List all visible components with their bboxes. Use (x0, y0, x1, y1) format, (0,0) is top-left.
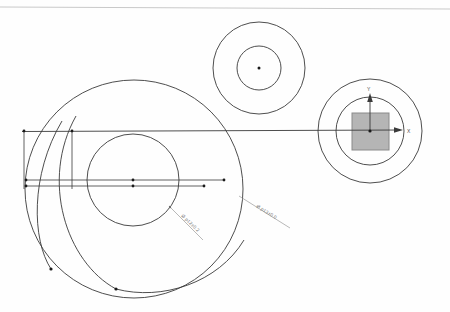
left-view-center-mark-b (132, 185, 135, 188)
coordinate-origin-point (368, 129, 371, 132)
cad-drawing-svg: Ø p12±0.2 Ø p13±0.0 X Y (0, 0, 450, 312)
vertex-dot (49, 267, 52, 270)
vertex-dot (25, 179, 28, 182)
vertex-dot (25, 185, 28, 188)
sheet-top-rule (0, 7, 450, 9)
vertex-dot (223, 179, 226, 182)
x-axis-label: X (407, 128, 411, 134)
y-axis-label: Y (367, 86, 371, 92)
sweep-arc-tail (116, 240, 244, 293)
dim-leader-origin-dot (169, 206, 171, 208)
vertex-dot (71, 130, 74, 133)
vertex-dot (23, 130, 26, 133)
x-axis-arrowhead (394, 127, 403, 133)
dimension-outer-diameter: Ø p13±0.0 (239, 196, 290, 228)
dim-outer-diameter-label: Ø p13±0.0 (255, 204, 278, 221)
dim-leader-line (170, 207, 203, 240)
vertex-dot (114, 287, 117, 290)
dim-inner-diameter-label: Ø p12±0.2 (180, 213, 200, 233)
top-view-center-point (258, 67, 261, 70)
main-horizontal-axis (22, 130, 400, 132)
sweep-arc-outer (37, 121, 62, 269)
left-view-center-mark-a (132, 179, 135, 182)
vertex-dot (203, 185, 206, 188)
left-view-outer-circle (25, 80, 243, 298)
dimension-inner-diameter: Ø p12±0.2 (169, 206, 203, 240)
cad-drawing-canvas: Ø p12±0.2 Ø p13±0.0 X Y (0, 0, 450, 312)
